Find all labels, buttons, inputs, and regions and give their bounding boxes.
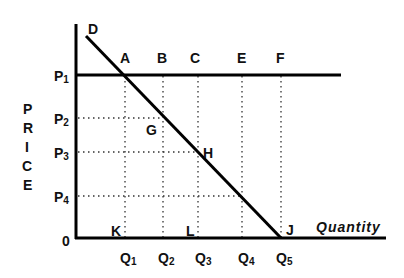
- q4-label: Q4: [238, 250, 255, 267]
- point-f-label: F: [276, 50, 285, 66]
- point-c-label: C: [190, 50, 200, 66]
- point-l-label: L: [186, 223, 195, 239]
- y-axis-title-letter: P: [23, 101, 32, 117]
- point-k-label: K: [111, 223, 121, 239]
- y-axis-title-letter: C: [22, 158, 32, 174]
- point-a-label: A: [120, 50, 130, 66]
- p2-label: P2: [54, 111, 69, 128]
- p1-label: P1: [54, 68, 69, 85]
- demand-diagram: D A B C E F G H J K L P1 P2 P3 P4 0 Q1 Q…: [0, 0, 404, 278]
- point-g-label: G: [146, 122, 157, 138]
- q3-label: Q3: [195, 250, 212, 267]
- y-axis-title: P R I C E: [22, 101, 33, 193]
- y-axis-title-letter: R: [23, 120, 33, 136]
- q5-label: Q5: [276, 250, 293, 267]
- x-axis-title: Quantity: [316, 219, 381, 235]
- y-axis-title-letter: I: [25, 139, 29, 155]
- p3-label: P3: [54, 145, 69, 162]
- guide-lines: [78, 76, 281, 238]
- point-b-label: B: [157, 50, 167, 66]
- point-j-label: J: [286, 222, 294, 238]
- demand-curve: [86, 36, 281, 238]
- demand-curve-label: D: [88, 21, 98, 37]
- y-axis-title-letter: E: [23, 177, 32, 193]
- q2-label: Q2: [158, 250, 175, 267]
- point-h-label: H: [203, 145, 213, 161]
- point-e-label: E: [237, 50, 246, 66]
- q1-label: Q1: [120, 250, 137, 267]
- p4-label: P4: [54, 189, 69, 206]
- origin-label: 0: [62, 233, 70, 249]
